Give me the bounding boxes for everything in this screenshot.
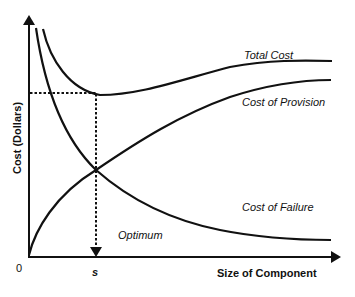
y-axis-arrow-icon (23, 15, 35, 25)
cost-of-failure-label: Cost of Failure (242, 201, 314, 213)
origin-label: 0 (16, 262, 22, 274)
cost-of-provision-label: Cost of Provision (242, 96, 325, 108)
total-cost-label: Total Cost (244, 49, 293, 61)
x-axis-title: Size of Component (217, 267, 317, 279)
x-axis-arrow-icon (331, 251, 341, 263)
optimum-arrow-icon (90, 247, 102, 257)
optimum-size-label: s (92, 266, 98, 278)
total-cost-curve (43, 29, 332, 95)
y-axis-title: Cost (Dollars) (11, 93, 23, 183)
optimum-label: Optimum (118, 229, 163, 241)
chart-canvas (0, 0, 355, 297)
